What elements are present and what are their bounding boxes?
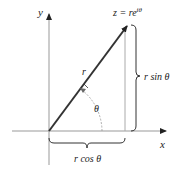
- y-axis-label: y: [37, 6, 43, 18]
- point-label-base: z = re: [112, 7, 137, 18]
- point-label: z = reiθ: [112, 6, 143, 18]
- r-cos-label: r cos θ: [74, 153, 101, 164]
- angle-arc: [82, 90, 102, 131]
- brace-r-sin: [131, 25, 140, 131]
- point-label-exponent: iθ: [137, 6, 143, 14]
- vector-z: [49, 26, 127, 131]
- r-sin-label: r sin θ: [144, 71, 170, 82]
- brace-r-cos: [49, 138, 125, 148]
- radius-label: r: [82, 66, 86, 77]
- angle-label: θ: [94, 103, 99, 114]
- vector-tick: [84, 84, 88, 88]
- polar-diagram: y x z = reiθ r θ r sin θ r cos θ: [0, 0, 182, 177]
- x-axis-label: x: [159, 138, 165, 150]
